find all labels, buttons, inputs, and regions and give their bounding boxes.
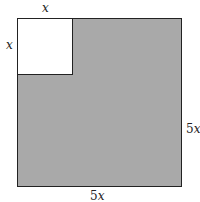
right-label-var: x (194, 122, 200, 136)
bottom-label-num: 5 (90, 189, 98, 202)
right-label-num: 5 (186, 122, 194, 136)
outer-bottom-label: 5x (90, 189, 104, 202)
inner-square-unshaded (17, 18, 73, 75)
outer-right-label: 5x (186, 122, 200, 136)
inner-left-label: x (6, 38, 13, 52)
inner-top-label: x (42, 1, 49, 15)
bottom-label-var: x (98, 189, 105, 202)
